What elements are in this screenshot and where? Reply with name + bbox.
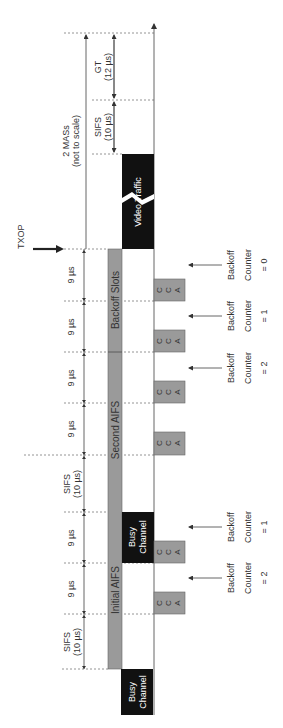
svg-text:Busy: Busy xyxy=(127,681,137,702)
interval-label-slot6: 9 µs xyxy=(66,266,76,284)
svg-text:Busy: Busy xyxy=(127,526,137,547)
svg-text:Backoff: Backoff xyxy=(226,353,236,383)
svg-text:A: A xyxy=(173,287,182,293)
svg-text:= 2: = 2 xyxy=(259,362,269,375)
svg-text:2 MASs: 2 MASs xyxy=(61,125,71,157)
svg-text:Counter: Counter xyxy=(243,352,253,384)
two-mas-label: 2 MASs (not to scale) xyxy=(61,115,81,167)
second-aifs-label: Second AIFS xyxy=(110,400,121,459)
svg-text:Channel: Channel xyxy=(138,675,148,709)
svg-text:(10 µs): (10 µs) xyxy=(103,113,113,141)
svg-text:(12 µs): (12 µs) xyxy=(103,53,113,81)
svg-text:= 1: = 1 xyxy=(259,521,269,534)
svg-text:SIFS: SIFS xyxy=(62,632,72,652)
svg-text:A: A xyxy=(173,600,182,606)
interval-label-slot3: 9 µs xyxy=(66,420,76,438)
svg-text:C: C xyxy=(155,389,164,395)
svg-text:Counter: Counter xyxy=(243,249,253,281)
timing-diagram: TXOP 2 MASs (not to scale) GT (12 µs) SI… xyxy=(0,0,283,728)
svg-text:A: A xyxy=(173,338,182,344)
svg-text:C: C xyxy=(164,287,173,293)
svg-text:C: C xyxy=(155,600,164,606)
backoff-slots-label: Backoff Slots xyxy=(110,271,121,329)
svg-text:Backoff: Backoff xyxy=(226,563,236,593)
svg-text:C: C xyxy=(155,549,164,555)
gt-label: GT (12 µs) xyxy=(93,53,113,81)
interval-label-slot4: 9 µs xyxy=(66,369,76,387)
svg-text:Counter: Counter xyxy=(243,300,253,332)
interval-label-slot1: 9 µs xyxy=(66,580,76,598)
svg-text:Backoff: Backoff xyxy=(226,512,236,542)
counter-label-4: Backoff Counter = 1 xyxy=(226,300,269,332)
svg-text:A: A xyxy=(173,549,182,555)
svg-text:(not to scale): (not to scale) xyxy=(71,115,81,167)
counter-label-1: Backoff Counter = 2 xyxy=(226,562,269,594)
svg-text:C: C xyxy=(164,389,173,395)
svg-text:C: C xyxy=(155,338,164,344)
initial-aifs-label: Initial AIFS xyxy=(110,566,121,614)
busy-channel-start xyxy=(121,669,153,715)
svg-text:C: C xyxy=(164,440,173,446)
svg-text:(10 µs): (10 µs) xyxy=(72,470,82,498)
svg-text:A: A xyxy=(173,389,182,395)
svg-text:Backoff: Backoff xyxy=(226,301,236,331)
svg-text:GT: GT xyxy=(93,60,103,73)
interval-label-sifs2: SIFS (10 µs) xyxy=(62,470,82,498)
interval-label-slot5: 9 µs xyxy=(66,318,76,336)
interval-label-slot2: 9 µs xyxy=(66,529,76,547)
video-traffic-label: Video Traffic xyxy=(133,177,143,227)
counter-arrows xyxy=(189,265,222,578)
svg-text:Backoff: Backoff xyxy=(226,250,236,280)
svg-text:Counter: Counter xyxy=(243,562,253,594)
boundary-lines xyxy=(24,33,154,669)
svg-text:= 1: = 1 xyxy=(259,310,269,323)
svg-text:= 0: = 0 xyxy=(259,259,269,272)
svg-text:C: C xyxy=(164,338,173,344)
counter-label-2: Backoff Counter = 1 xyxy=(226,511,269,543)
interval-label-sifs1: SIFS (10 µs) xyxy=(62,628,82,656)
svg-text:= 2: = 2 xyxy=(259,572,269,585)
svg-text:(10 µs): (10 µs) xyxy=(72,628,82,656)
svg-text:C: C xyxy=(164,600,173,606)
counter-label-3: Backoff Counter = 2 xyxy=(226,352,269,384)
upper-sifs-label: SIFS (10 µs) xyxy=(93,113,113,141)
svg-text:C: C xyxy=(164,549,173,555)
svg-text:SIFS: SIFS xyxy=(93,117,103,137)
svg-text:C: C xyxy=(155,287,164,293)
counter-label-5: Backoff Counter = 0 xyxy=(226,249,269,281)
svg-text:SIFS: SIFS xyxy=(62,474,72,494)
svg-text:A: A xyxy=(173,440,182,446)
svg-text:C: C xyxy=(155,440,164,446)
svg-text:Channel: Channel xyxy=(138,520,148,554)
txop-label: TXOP xyxy=(16,224,26,249)
svg-text:Counter: Counter xyxy=(243,511,253,543)
